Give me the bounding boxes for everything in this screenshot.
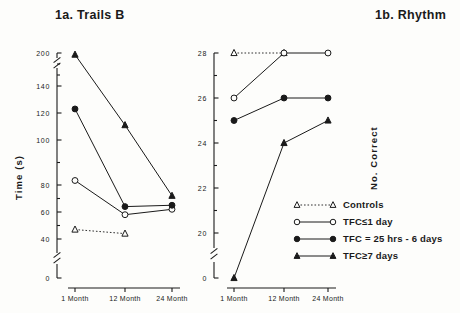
x-axis-tick-label: 12 Month xyxy=(109,295,141,302)
figure-container: 1a. Trails B Time (s) 040608010012014020… xyxy=(0,0,460,313)
y-axis-tick-label: 24 xyxy=(198,140,207,147)
y-axis-tick-label: 28 xyxy=(198,50,207,57)
y-axis-tick-label: 20 xyxy=(198,230,207,237)
data-point-filled-triangle xyxy=(72,51,78,57)
axis-break-icon xyxy=(54,57,61,68)
legend-item: TFC = 25 hrs - 6 days xyxy=(292,230,443,247)
legend-label: TFC = 25 hrs - 6 days xyxy=(338,233,443,244)
y-axis-tick-label: 80 xyxy=(41,182,50,189)
y-axis-tick-label: 40 xyxy=(41,236,50,243)
data-point-filled-circle xyxy=(231,118,237,124)
x-axis-tick-label: 1 Month xyxy=(220,295,247,302)
legend-symbol-tfc-1-day xyxy=(292,215,338,229)
data-point-open-circle xyxy=(330,219,336,225)
data-point-open-circle xyxy=(281,50,287,56)
series-line-tfc-1-day xyxy=(234,53,328,98)
data-point-open-circle xyxy=(231,95,237,101)
data-point-filled-circle xyxy=(330,236,336,242)
legend-item: TFC≤1 day xyxy=(292,213,443,230)
data-point-open-circle xyxy=(294,219,300,225)
legend-symbol-tfc-7-days xyxy=(292,249,338,263)
legend-symbol-tfc-25hrs-6days xyxy=(292,232,338,246)
legend-symbol-controls xyxy=(292,198,338,212)
data-point-filled-circle xyxy=(294,236,300,242)
x-axis-tick-label: 1 Month xyxy=(61,295,88,302)
data-point-open-triangle xyxy=(294,201,300,207)
legend: Controls TFC≤1 day TFC = 25 hrs - 6 days… xyxy=(292,196,443,264)
y-axis-tick-label: 60 xyxy=(41,209,50,216)
panel-rhythm: 1b. Rhythm No. Correct 020222426281 Mont… xyxy=(178,0,460,313)
axis-break-icon xyxy=(211,248,218,259)
y-axis-tick-label: 0 xyxy=(45,275,50,282)
data-point-open-circle xyxy=(325,50,331,56)
series-line-tfc-25-hrs-6-days xyxy=(234,98,328,121)
data-point-open-triangle xyxy=(122,230,128,236)
data-point-filled-circle xyxy=(72,106,78,112)
data-point-open-circle xyxy=(122,212,128,218)
legend-item: TFC≥7 days xyxy=(292,247,443,264)
legend-label: TFC≤1 day xyxy=(338,216,393,227)
data-point-filled-circle xyxy=(169,202,175,208)
y-axis-tick-label: 26 xyxy=(198,95,207,102)
legend-label: TFC≥7 days xyxy=(338,250,398,261)
data-point-filled-triangle xyxy=(325,117,331,123)
y-axis-tick-label: 22 xyxy=(198,185,207,192)
data-point-filled-triangle xyxy=(281,139,287,145)
data-point-filled-circle xyxy=(325,95,331,101)
x-axis-tick-label: 12 Month xyxy=(268,295,300,302)
legend-item: Controls xyxy=(292,196,443,213)
y-axis-tick-label: 100 xyxy=(36,137,50,144)
legend-label: Controls xyxy=(338,199,384,210)
data-point-filled-triangle xyxy=(231,274,237,280)
data-point-open-triangle xyxy=(231,49,237,55)
series-line-controls xyxy=(75,230,125,234)
panel-b-plot: 020222426281 Month12 Month24 Month xyxy=(178,0,460,313)
y-axis-tick-label: 200 xyxy=(36,50,50,57)
y-axis-tick-label: 0 xyxy=(202,275,207,282)
data-point-filled-circle xyxy=(122,204,128,210)
y-axis-tick-label: 140 xyxy=(36,83,50,90)
axis-break-icon xyxy=(54,252,61,263)
y-axis-tick-label: 120 xyxy=(36,110,50,117)
x-axis-tick-label: 24 Month xyxy=(312,295,344,302)
data-point-filled-circle xyxy=(281,95,287,101)
data-point-open-triangle xyxy=(330,201,336,207)
data-point-open-triangle xyxy=(72,226,78,232)
data-point-open-circle xyxy=(72,178,78,184)
